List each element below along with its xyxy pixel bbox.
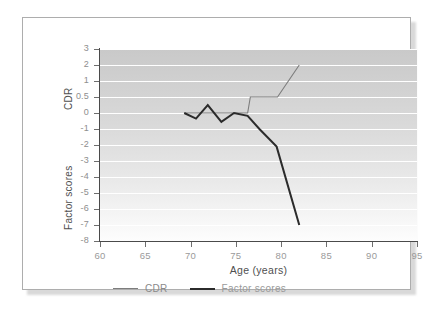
y-tick-mark [94, 161, 99, 162]
x-tick-mark [191, 242, 192, 247]
y-tick-label: 2 [43, 60, 89, 69]
legend-line-icon-cdr [113, 288, 138, 289]
legend-item-cdr: CDR [113, 283, 168, 294]
y-tick-label: -3 [43, 156, 89, 165]
data-series-layer [100, 49, 417, 241]
chart-frame: CDR Factor scores 3210.50-1-2-3-4-5-6-7-… [22, 17, 411, 290]
y-tick-mark [94, 241, 99, 242]
y-tick-mark [94, 145, 99, 146]
y-tick-label: -2 [43, 140, 89, 149]
x-axis-title: Age (years) [100, 264, 417, 276]
y-tick-mark [94, 65, 99, 66]
x-tick-mark [326, 242, 327, 247]
y-tick-mark [94, 129, 99, 130]
figure-root: CDR Factor scores 3210.50-1-2-3-4-5-6-7-… [0, 0, 432, 312]
x-tick-mark [236, 242, 237, 247]
x-tick-label: 70 [178, 250, 204, 261]
x-axis-line [99, 241, 418, 242]
y-axis-line [99, 48, 100, 242]
y-tick-mark [94, 225, 99, 226]
chart-legend: CDR Factor scores [113, 283, 286, 294]
series-line-factor-scores [184, 105, 299, 225]
x-tick-mark [372, 242, 373, 247]
y-tick-mark [94, 81, 99, 82]
x-tick-mark [100, 242, 101, 247]
y-tick-mark [94, 177, 99, 178]
x-tick-mark [281, 242, 282, 247]
y-tick-label: 0.5 [43, 92, 89, 101]
x-tick-label: 80 [268, 250, 294, 261]
x-tick-label: 60 [87, 250, 113, 261]
x-tick-label: 65 [132, 250, 158, 261]
y-tick-label: 0 [43, 108, 89, 117]
x-tick-label: 85 [313, 250, 339, 261]
legend-label-cdr: CDR [145, 283, 168, 294]
legend-line-icon-factor-scores [190, 288, 215, 290]
y-tick-mark [94, 49, 99, 50]
y-tick-label: -8 [43, 236, 89, 245]
y-tick-label: -6 [43, 204, 89, 213]
y-tick-label: -5 [43, 188, 89, 197]
x-tick-mark [145, 242, 146, 247]
series-line-cdr [184, 65, 299, 113]
x-tick-label: 90 [359, 250, 385, 261]
y-tick-label: -7 [43, 220, 89, 229]
y-tick-mark [94, 209, 99, 210]
plot-area [100, 49, 417, 241]
x-tick-mark [417, 242, 418, 247]
y-tick-label: -1 [43, 124, 89, 133]
y-tick-label: 1 [43, 76, 89, 85]
legend-item-factor-scores: Factor scores [190, 283, 286, 294]
y-tick-mark [94, 113, 99, 114]
y-tick-mark [94, 97, 99, 98]
legend-label-factor-scores: Factor scores [222, 283, 286, 294]
x-tick-label: 95 [404, 250, 430, 261]
y-tick-label: -4 [43, 172, 89, 181]
y-tick-mark [94, 193, 99, 194]
y-tick-label: 3 [43, 44, 89, 53]
x-tick-label: 75 [223, 250, 249, 261]
